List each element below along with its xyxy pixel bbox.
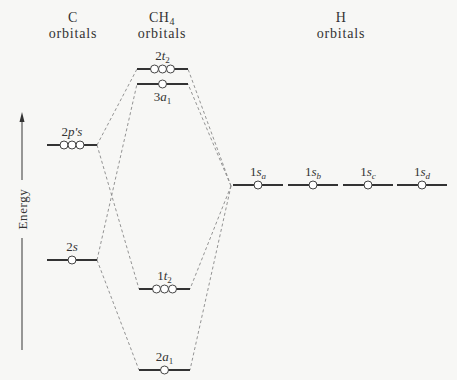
orbital-label-1sd: 1sd — [414, 164, 431, 181]
orbital-circle-icon — [364, 181, 372, 189]
h-orbitals-header: H orbitals — [317, 10, 365, 41]
energy-axis-label: Energy — [15, 189, 30, 230]
orbital-circle-icon — [60, 141, 68, 149]
label-subscript: b — [317, 171, 322, 181]
correlation-lines — [97, 69, 231, 370]
h-header-title: H — [336, 10, 347, 25]
orbital-label-2a1: 2a1 — [156, 349, 174, 366]
orbital-label-1t2: 1t2 — [157, 268, 172, 285]
orbital-circle-icon — [418, 181, 426, 189]
orbital-circle-icon — [159, 80, 167, 88]
orbital-circle-icon — [76, 141, 84, 149]
c-orbitals-header: C orbitals — [49, 10, 97, 41]
c-header-sub: orbitals — [49, 26, 97, 41]
correlation-line-H-3a1 — [188, 84, 231, 186]
ch4-header-title: CH4 — [149, 10, 175, 27]
orbital-label-1sa: 1sa — [250, 164, 267, 181]
orbital-level-1sc: 1sc — [343, 164, 393, 189]
orbital-circle-icon — [151, 65, 159, 73]
mo-diagram: C orbitals CH4 orbitals H orbitals Energ… — [0, 0, 457, 380]
label-subscript: 1 — [167, 96, 172, 106]
orbital-circle-icon — [169, 285, 177, 293]
label-subscript: 2 — [165, 55, 170, 65]
energy-axis: Energy — [15, 112, 30, 350]
label-subscript: c — [372, 171, 376, 181]
label-letter: s — [73, 239, 78, 254]
orbital-level-1sd: 1sd — [397, 164, 447, 189]
orbital-label-1sb: 1sb — [305, 164, 322, 181]
correlation-line-H-2t2 — [188, 69, 231, 186]
label-suffix: 's — [75, 124, 83, 139]
ch4-orbitals-header: CH4 orbitals — [138, 10, 186, 41]
orbital-label-2s: 2s — [66, 239, 78, 254]
orbital-circle-icon — [254, 181, 262, 189]
orbital-level-1t2: 1t2 — [139, 268, 190, 293]
orbital-circle-icon — [153, 285, 161, 293]
h-header-sub: orbitals — [317, 26, 365, 41]
correlation-line-2p-2t2 — [97, 69, 137, 145]
correlation-line-2s-2a1 — [97, 260, 139, 370]
orbital-level-2s: 2s — [47, 239, 97, 264]
orbital-level-2t2: 2t2 — [137, 48, 188, 73]
orbital-circle-icon — [161, 285, 169, 293]
correlation-line-H-1t2 — [190, 186, 231, 289]
orbital-level-1sb: 1sb — [288, 164, 338, 189]
c-header-title: C — [68, 10, 78, 25]
orbital-level-3a1: 3a1 — [137, 80, 188, 106]
ch4-formula: CH — [149, 10, 169, 25]
orbital-level-1sa: 1sa — [233, 164, 283, 189]
orbital-level-2p: 2p's — [47, 124, 97, 149]
energy-levels: 2p's2s2t23a11t22a11sa1sb1sc1sd — [47, 48, 447, 374]
label-subscript: a — [262, 171, 267, 181]
orbital-label-2t2: 2t2 — [155, 48, 170, 65]
correlation-line-H-2a1 — [190, 186, 231, 370]
orbital-circle-icon — [68, 256, 76, 264]
orbital-circle-icon — [161, 366, 169, 374]
label-subscript: d — [426, 171, 431, 181]
label-subscript: 1 — [169, 356, 174, 366]
orbital-circle-icon — [159, 65, 167, 73]
orbital-circle-icon — [309, 181, 317, 189]
orbital-label-1sc: 1sc — [360, 164, 376, 181]
orbital-level-2a1: 2a1 — [139, 349, 190, 374]
arrow-up-icon — [20, 112, 25, 122]
orbital-label-3a1: 3a1 — [154, 89, 172, 106]
ch4-header-sub: orbitals — [138, 26, 186, 41]
orbital-circle-icon — [68, 141, 76, 149]
orbital-label-2p: 2p's — [62, 124, 83, 139]
label-subscript: 2 — [167, 275, 172, 285]
correlation-line-2s-3a1 — [97, 84, 137, 260]
orbital-circle-icon — [167, 65, 175, 73]
